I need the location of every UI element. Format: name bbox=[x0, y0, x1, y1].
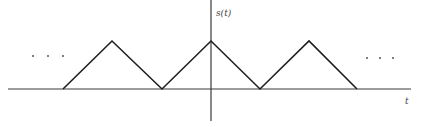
x-axis-label: t bbox=[405, 96, 409, 106]
ellipsis-right bbox=[366, 57, 394, 59]
triangle-wave-line bbox=[63, 41, 357, 89]
ellipsis-left bbox=[32, 55, 64, 57]
y-axis-label: s(t) bbox=[216, 8, 232, 18]
triangle-wave-chart: s(t) t bbox=[0, 0, 421, 127]
